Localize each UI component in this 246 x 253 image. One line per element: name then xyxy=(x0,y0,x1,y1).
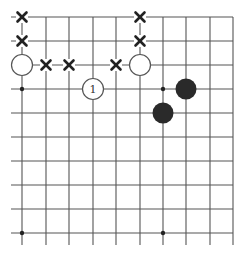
black-stone xyxy=(176,79,197,100)
go-board-svg: 1 xyxy=(0,0,246,253)
white-stone xyxy=(12,55,33,76)
grid-lines xyxy=(11,17,233,245)
white-stone xyxy=(130,55,151,76)
black-stone xyxy=(153,103,174,124)
star-point xyxy=(20,87,24,91)
star-point xyxy=(161,231,165,235)
go-board-diagram: 1 xyxy=(0,0,246,253)
star-point xyxy=(161,87,165,91)
star-point xyxy=(20,231,24,235)
move-number-label: 1 xyxy=(90,83,97,96)
